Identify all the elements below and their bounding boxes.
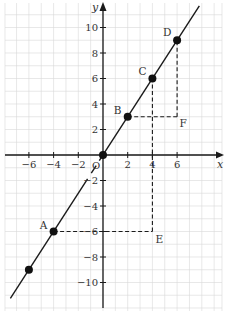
- point-label-C: C: [138, 65, 146, 77]
- y-axis-label: y: [91, 1, 99, 14]
- y-tick-label: 6: [92, 73, 98, 84]
- point-O: [99, 151, 107, 159]
- point-label-F: F: [179, 117, 186, 129]
- origin-label: O: [92, 160, 100, 171]
- x-tick-label: 4: [149, 159, 155, 170]
- y-tick-label: 2: [92, 124, 98, 135]
- point-label-A: A: [39, 219, 48, 231]
- x-axis-label: x: [217, 158, 224, 171]
- y-tick-label: −4: [83, 201, 98, 212]
- point-D: [173, 36, 181, 44]
- line-segment-upper: [99, 6, 199, 161]
- point-B: [124, 113, 132, 121]
- y-tick-label: 8: [92, 48, 98, 59]
- y-tick-label: 4: [92, 99, 98, 110]
- point-label-E: E: [156, 233, 164, 245]
- point-C: [148, 75, 156, 83]
- grid: [5, 3, 222, 311]
- y-axis-arrow-icon: [100, 2, 107, 11]
- labels: −6−4−2246108642−2−4−6−8−10xyOABCDEF: [22, 1, 224, 288]
- y-tick-label: −10: [77, 277, 98, 288]
- x-tick-label: 6: [174, 159, 180, 170]
- y-tick-label: −6: [83, 226, 98, 237]
- point: [25, 266, 33, 274]
- y-tick-label: −8: [83, 252, 98, 263]
- x-tick-label: −4: [46, 159, 61, 170]
- x-tick-label: −6: [22, 159, 37, 170]
- y-tick-label: −2: [83, 175, 98, 186]
- x-tick-label: −2: [71, 159, 86, 170]
- point-label-D: D: [163, 26, 171, 38]
- y-tick-label: 10: [85, 22, 98, 33]
- x-tick-label: 2: [125, 159, 131, 170]
- coordinate-plane: −6−4−2246108642−2−4−6−8−10xyOABCDEF: [0, 0, 225, 316]
- axes: [5, 2, 224, 308]
- point-label-B: B: [114, 104, 122, 116]
- point-A: [50, 228, 58, 236]
